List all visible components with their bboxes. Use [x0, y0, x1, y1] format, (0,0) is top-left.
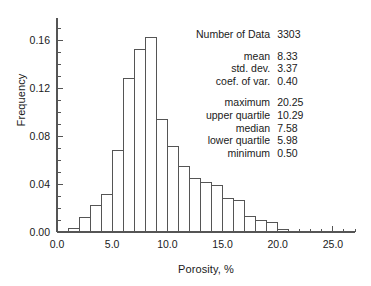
statistics-spacer	[196, 41, 303, 50]
x-axis-tick-label: 5.0	[90, 238, 134, 250]
stat-value-number-of-data: 3303	[277, 28, 303, 41]
statistics-block: Number of Data3303mean8.33std. dev.3.37c…	[196, 28, 303, 159]
stat-value: 7.58	[277, 122, 303, 135]
stat-value: 10.29	[277, 109, 303, 122]
histogram-bar	[134, 50, 145, 232]
x-axis-tick-label: 20.0	[256, 238, 300, 250]
stat-label: lower quartile	[196, 134, 277, 147]
statistics-row: maximum20.25	[196, 96, 303, 109]
statistics-row: lower quartile5.98	[196, 134, 303, 147]
histogram-bar	[200, 183, 211, 232]
histogram-bar	[123, 78, 134, 232]
histogram-bar	[90, 206, 101, 232]
statistics-row: median7.58	[196, 122, 303, 135]
stat-label: upper quartile	[196, 109, 277, 122]
stat-label: coef. of var.	[196, 75, 277, 88]
stat-label-number-of-data: Number of Data	[196, 28, 277, 41]
stat-value: 0.50	[277, 147, 303, 160]
statistics-row: std. dev.3.37	[196, 62, 303, 75]
x-axis-title: Porosity, %	[57, 263, 355, 275]
statistics-row: upper quartile10.29	[196, 109, 303, 122]
y-axis-tick-label: 0.12	[6, 82, 50, 94]
x-axis-tick-label: 10.0	[145, 238, 189, 250]
histogram-bar	[212, 185, 223, 232]
statistics-row: minimum0.50	[196, 147, 303, 160]
histogram-bar	[167, 147, 178, 232]
statistics-row: mean8.33	[196, 50, 303, 63]
x-axis-tick-labels: 0.05.010.015.020.025.0	[0, 238, 371, 258]
histogram-bar	[267, 222, 278, 232]
statistics-table: Number of Data3303mean8.33std. dev.3.37c…	[196, 28, 303, 159]
statistics-row: Number of Data3303	[196, 28, 303, 41]
stat-label: std. dev.	[196, 62, 277, 75]
stat-label: maximum	[196, 96, 277, 109]
histogram-bar	[145, 38, 156, 232]
x-axis-tick-label: 0.0	[35, 238, 79, 250]
histogram-bar	[178, 166, 189, 232]
histogram-bar	[189, 178, 200, 232]
stat-label: median	[196, 122, 277, 135]
y-axis-title: Frequency	[15, 45, 27, 155]
statistics-spacer	[196, 87, 303, 96]
y-axis-tick-label: 0.04	[6, 178, 50, 190]
histogram-bar	[245, 216, 256, 232]
stat-label: minimum	[196, 147, 277, 160]
stat-value: 5.98	[277, 134, 303, 147]
stat-value: 3.37	[277, 62, 303, 75]
histogram-bar	[234, 201, 245, 232]
histogram-bar	[256, 220, 267, 232]
y-axis-tick-label: 0.00	[6, 226, 50, 238]
histogram-bar	[156, 119, 167, 232]
histogram-bar	[223, 198, 234, 232]
y-axis-tick-label: 0.08	[6, 130, 50, 142]
y-axis-tick-label: 0.16	[6, 34, 50, 46]
statistics-row: coef. of var.0.40	[196, 75, 303, 88]
histogram-bar	[79, 218, 90, 232]
stat-value: 20.25	[277, 96, 303, 109]
stat-label: mean	[196, 50, 277, 63]
x-axis-tick-label: 15.0	[201, 238, 245, 250]
stat-value: 0.40	[277, 75, 303, 88]
stat-value: 8.33	[277, 50, 303, 63]
histogram-figure: 0.000.040.080.120.16 0.05.010.015.020.02…	[0, 0, 371, 286]
histogram-bar	[112, 150, 123, 232]
histogram-bar	[101, 195, 112, 232]
x-axis-tick-label: 25.0	[311, 238, 355, 250]
